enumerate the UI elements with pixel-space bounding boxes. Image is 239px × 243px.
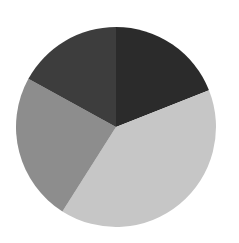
pie-slices [16,27,216,227]
pie-chart [0,0,239,243]
